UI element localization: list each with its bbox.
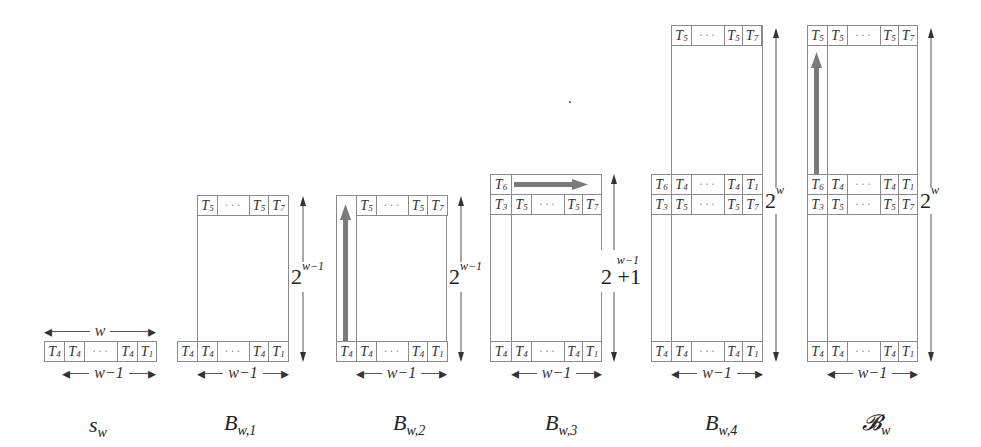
width-dimension-w-1: ◂w−1▸ — [827, 366, 918, 380]
stray-dot — [569, 101, 571, 103]
caption-bw-final: 𝓑w — [862, 410, 890, 439]
height-label: 2w — [920, 188, 939, 214]
